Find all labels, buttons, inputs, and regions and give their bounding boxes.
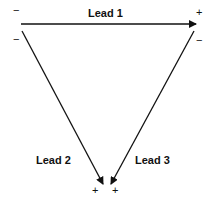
lead-1-negative-sign: − xyxy=(13,5,19,16)
lead-arrows xyxy=(0,0,214,205)
lead-2-negative-sign: − xyxy=(13,34,19,45)
lead-1-positive-sign: + xyxy=(196,7,202,18)
lead-3-positive-sign: + xyxy=(112,185,118,196)
lead-2-label: Lead 2 xyxy=(36,154,71,166)
lead-3-negative-sign: − xyxy=(196,35,202,46)
lead-1-label: Lead 1 xyxy=(88,7,123,19)
lead-3-label: Lead 3 xyxy=(135,154,170,166)
einthoven-triangle-diagram: − Lead 1 + − − Lead 2 Lead 3 + + xyxy=(0,0,214,205)
lead-2-positive-sign: + xyxy=(92,185,98,196)
